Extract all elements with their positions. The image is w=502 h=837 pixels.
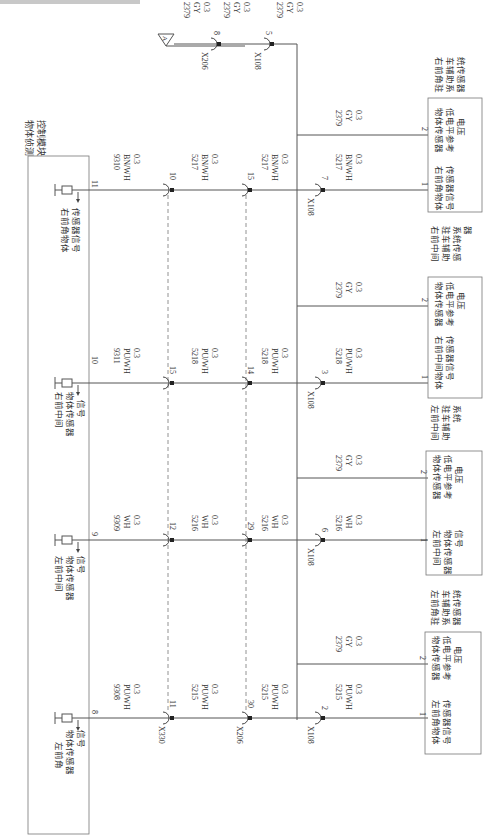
svg-text:PU/WH: PU/WH	[270, 684, 279, 710]
svg-text:5: 5	[264, 31, 273, 35]
svg-text:2: 2	[420, 298, 429, 302]
svg-text:2379: 2379	[222, 2, 231, 18]
svg-text:7: 7	[320, 176, 329, 180]
svg-text:左前中间: 左前中间	[430, 405, 440, 441]
svg-text:信号: 信号	[76, 730, 86, 748]
svg-text:1: 1	[420, 182, 429, 186]
svg-text:PU/WH: PU/WH	[122, 684, 131, 710]
svg-text:BN/WH: BN/WH	[270, 154, 279, 181]
svg-text:10: 10	[90, 356, 99, 364]
svg-text:2379: 2379	[334, 636, 343, 652]
svg-text:PU/WH: PU/WH	[122, 348, 131, 374]
svg-text:14: 14	[246, 366, 255, 374]
svg-text:车辅助系: 车辅助系	[441, 590, 451, 626]
svg-text:BN/WH: BN/WH	[122, 154, 131, 181]
svg-text:2: 2	[320, 706, 329, 710]
svg-text:WH: WH	[122, 515, 131, 529]
svg-text:统传感器: 统传感器	[452, 590, 462, 626]
svg-text:0.3: 0.3	[354, 684, 363, 694]
svg-text:右前角驻: 右前角驻	[434, 57, 444, 93]
svg-text:左前中间: 左前中间	[432, 530, 442, 566]
svg-text:0.3: 0.3	[354, 110, 363, 120]
svg-text:统传感器: 统传感器	[456, 57, 466, 93]
svg-text:器: 器	[463, 226, 473, 235]
svg-text:左前中间: 左前中间	[54, 556, 64, 592]
module-title-line2: 控制模块	[36, 120, 47, 156]
svg-text:15: 15	[246, 172, 255, 180]
svg-text:0.3: 0.3	[354, 282, 363, 292]
svg-text:9310: 9310	[112, 154, 121, 170]
svg-text:12: 12	[168, 522, 177, 530]
svg-text:右前角物体: 右前角物体	[60, 208, 70, 253]
connector-labels: 10 15 7 X108 15 14 3 X108 12 29 6 X108 1…	[157, 172, 329, 744]
resistor-icon	[62, 379, 72, 387]
svg-text:0.3: 0.3	[280, 154, 289, 164]
svg-text:8: 8	[90, 710, 99, 714]
svg-text:传感器信号: 传感器信号	[445, 166, 455, 211]
svg-text:0.3: 0.3	[210, 348, 219, 358]
svg-text:GY: GY	[344, 110, 353, 122]
svg-text:系统: 系统	[452, 405, 462, 423]
svg-text:5215: 5215	[334, 684, 343, 700]
svg-text:GY: GY	[285, 2, 294, 14]
svg-text:0.3: 0.3	[210, 515, 219, 525]
svg-text:9308: 9308	[112, 684, 121, 700]
svg-text:WH: WH	[344, 515, 353, 529]
svg-text:左前角物体: 左前角物体	[431, 700, 441, 745]
svg-text:物体传感器: 物体传感器	[443, 530, 453, 575]
svg-text:PU/WH: PU/WH	[200, 348, 209, 374]
svg-text:GY: GY	[344, 636, 353, 648]
svg-text:传感器信号: 传感器信号	[71, 208, 81, 253]
svg-text:0.3: 0.3	[242, 2, 251, 12]
svg-text:信号: 信号	[76, 400, 86, 418]
svg-text:低电平参考: 低电平参考	[443, 455, 453, 500]
svg-text:低电平参考: 低电平参考	[445, 282, 455, 327]
svg-text:X108: X108	[306, 548, 315, 566]
svg-text:GY: GY	[192, 2, 201, 14]
svg-text:系统传感: 系统传感	[452, 226, 462, 262]
svg-text:X330: X330	[157, 726, 166, 744]
svg-text:0.3: 0.3	[354, 636, 363, 646]
svg-text:PU/WH: PU/WH	[200, 684, 209, 710]
arrow-icon	[76, 199, 80, 203]
svg-text:0.3: 0.3	[132, 515, 141, 525]
svg-text:电压: 电压	[454, 466, 464, 484]
svg-text:2: 2	[419, 470, 428, 474]
svg-text:11: 11	[168, 700, 177, 708]
svg-text:X206: X206	[200, 52, 209, 70]
svg-text:0.3: 0.3	[280, 515, 289, 525]
wiring-diagram: 物体侦测 控制模块 右前角物体 传感器信号 11 右前中间 物体传感器 信号 1…	[0, 0, 502, 837]
svg-text:2379: 2379	[182, 2, 191, 18]
svg-text:2379: 2379	[275, 2, 284, 18]
svg-text:PU/WH: PU/WH	[270, 348, 279, 374]
svg-text:物体传感器: 物体传感器	[65, 556, 75, 601]
svg-text:9309: 9309	[112, 515, 121, 531]
svg-text:5218: 5218	[334, 348, 343, 364]
svg-text:传感器信号: 传感器信号	[442, 700, 452, 745]
svg-text:BN/WH: BN/WH	[200, 154, 209, 181]
svg-text:物体传感器: 物体传感器	[432, 455, 442, 500]
svg-text:WH: WH	[200, 515, 209, 529]
svg-text:信号: 信号	[76, 556, 86, 574]
svg-text:2: 2	[420, 127, 429, 131]
svg-text:传感器信号: 传感器信号	[445, 336, 455, 381]
svg-text:1: 1	[418, 712, 427, 716]
resistor-icon	[62, 186, 72, 194]
svg-text:1: 1	[420, 375, 429, 379]
svg-text:11: 11	[90, 180, 99, 188]
svg-text:5217: 5217	[260, 154, 269, 170]
svg-text:0.3: 0.3	[354, 154, 363, 164]
svg-text:0.3: 0.3	[210, 154, 219, 164]
svg-text:X108: X108	[306, 726, 315, 744]
svg-text:0.3: 0.3	[132, 348, 141, 358]
svg-text:左前角驻: 左前角驻	[430, 590, 440, 626]
svg-text:电压: 电压	[456, 292, 466, 310]
svg-text:2: 2	[418, 656, 427, 660]
svg-text:5216: 5216	[190, 515, 199, 531]
module-pin-10: 右前中间 物体传感器 信号 10	[54, 356, 99, 437]
svg-text:GY: GY	[232, 2, 241, 14]
arrow-icon	[76, 392, 80, 396]
svg-text:30: 30	[246, 700, 255, 708]
wire-labels: 9310 BN/WH 0.3 5217 BN/WH 0.3 5217 BN/WH…	[112, 154, 363, 710]
svg-text:0.3: 0.3	[210, 684, 219, 694]
